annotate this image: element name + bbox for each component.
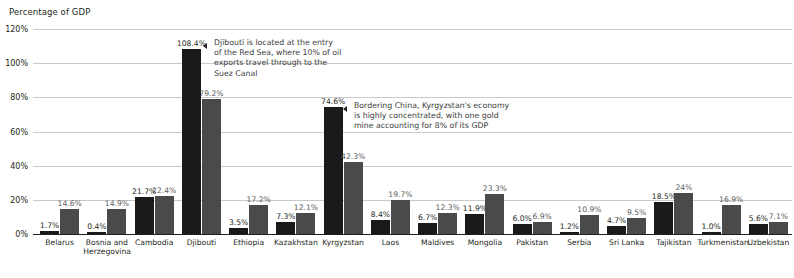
bar-group: 1.7%14.6% [40,29,79,234]
category-label: Belarus [36,238,83,247]
bars: 18.5%24% [654,29,693,234]
category-bosnia-and-herzegovina[interactable]: Bosnia and Herzegovina [83,238,130,256]
category-kyrgyzstan[interactable]: Kyrgyzstan [320,238,367,247]
bar[interactable]: 9.5% [627,218,646,234]
bar[interactable]: 7.1% [769,222,788,234]
bar[interactable]: 1.0% [702,232,721,234]
category-ethiopia[interactable]: Ethiopia [225,238,272,247]
bar-value-label: 6.7% [418,213,437,222]
bar-value-label: 42.3% [341,152,365,161]
bar-value-label: 74.6% [321,97,345,106]
bar[interactable]: 16.9% [722,205,741,234]
bar-value-label: 5.6% [749,214,768,223]
bar[interactable]: 21.7% [135,197,154,234]
category-label: Mongolia [461,238,508,247]
category-label: Pakistan [509,238,556,247]
bars: 1.7%14.6% [40,29,79,234]
bar-value-label: 79.2% [199,89,223,98]
bar[interactable]: 6.9% [533,222,552,234]
bar[interactable]: 10.9% [580,215,599,234]
bar-value-label: 0.4% [87,222,106,231]
bar-value-label: 22.4% [152,186,176,195]
y-axis-tick-60: 60% [0,127,28,136]
bar-value-label: 11.9% [463,204,487,213]
bar[interactable]: 14.6% [60,209,79,234]
bar[interactable]: 22.4% [155,196,174,234]
bar[interactable]: 4.7% [607,226,626,234]
category-label: Turkmenistan [698,238,745,247]
bar[interactable]: 19.7% [391,200,410,234]
y-axis-tick-0: 0% [0,230,28,239]
category-label: Kyrgyzstan [320,238,367,247]
bar-value-label: 19.7% [388,190,412,199]
bar[interactable]: 17.2% [249,205,268,234]
bar[interactable]: 11.9% [465,214,484,234]
bar-group: 21.7%22.4% [135,29,174,234]
bar[interactable]: 1.7% [40,231,59,234]
category-pakistan[interactable]: Pakistan [509,238,556,247]
bar-value-label: 108.4% [177,39,206,48]
category-label: Maldives [414,238,461,247]
bar[interactable]: 0.4% [87,232,106,234]
category-belarus[interactable]: Belarus [36,238,83,247]
category-cambodia[interactable]: Cambodia [131,238,178,247]
bar-value-label: 14.9% [105,199,129,208]
category-turkmenistan[interactable]: Turkmenistan [698,238,745,247]
bars: 5.6%7.1% [749,29,788,234]
bar-value-label: 6.0% [512,214,531,223]
bar-value-label: 1.7% [40,221,59,230]
bar[interactable]: 7.3% [276,222,295,234]
bars: 1.2%10.9% [560,29,599,234]
bar-value-label: 10.9% [577,205,601,214]
bar[interactable]: 42.3% [344,162,363,234]
gdp-bar-chart: Percentage of GDP 0%20%40%60%80%100%120%… [0,0,794,278]
bar[interactable]: 3.5% [229,228,248,234]
plot-area: 0%20%40%60%80%100%120%1.7%14.6%Belarus0.… [0,0,794,278]
bar[interactable]: 5.6% [749,224,768,234]
category-label: Uzbekistan [745,238,792,247]
bar[interactable]: 79.2% [202,99,221,234]
category-serbia[interactable]: Serbia [556,238,603,247]
bar-group: 6.0%6.9% [513,29,552,234]
bars: 6.0%6.9% [513,29,552,234]
y-axis-tick-20: 20% [0,195,28,204]
bar-value-label: 18.5% [652,192,676,201]
bar-group: 4.7%9.5% [607,29,646,234]
category-tajikistan[interactable]: Tajikistan [650,238,697,247]
category-label: Cambodia [131,238,178,247]
category-label: Bosnia and Herzegovina [83,238,130,256]
bar-value-label: 7.1% [769,212,788,221]
category-kazakhstan[interactable]: Kazakhstan [272,238,319,247]
bar[interactable]: 6.7% [418,223,437,234]
bar[interactable]: 8.4% [371,220,390,234]
bar[interactable]: 1.2% [560,232,579,234]
bar-value-label: 16.9% [719,195,743,204]
bar-group: 1.0%16.9% [702,29,741,234]
bar[interactable]: 74.6% [324,107,343,234]
y-axis-tick-40: 40% [0,161,28,170]
bar-group: 5.6%7.1% [749,29,788,234]
bar-value-label: 8.4% [371,210,390,219]
bar-group: 1.2%10.9% [560,29,599,234]
bar-value-label: 7.3% [276,212,295,221]
category-label: Kazakhstan [272,238,319,247]
bar[interactable]: 14.9% [107,209,126,234]
category-mongolia[interactable]: Mongolia [461,238,508,247]
category-maldives[interactable]: Maldives [414,238,461,247]
bar[interactable]: 12.3% [438,213,457,234]
bar[interactable]: 24% [674,193,693,234]
bar[interactable]: 23.3% [485,194,504,234]
category-uzbekistan[interactable]: Uzbekistan [745,238,792,247]
annotation-arrow-icon [343,106,347,112]
bar-group: 0.4%14.9% [87,29,126,234]
category-djibouti[interactable]: Djibouti [178,238,225,247]
bar[interactable]: 108.4% [182,49,201,234]
category-laos[interactable]: Laos [367,238,414,247]
bar[interactable]: 12.1% [296,213,315,234]
category-sri-lanka[interactable]: Sri Lanka [603,238,650,247]
bar[interactable]: 6.0% [513,224,532,234]
category-label: Ethiopia [225,238,272,247]
bar[interactable]: 18.5% [654,202,673,234]
category-label: Djibouti [178,238,225,247]
bar-value-label: 12.3% [436,203,460,212]
